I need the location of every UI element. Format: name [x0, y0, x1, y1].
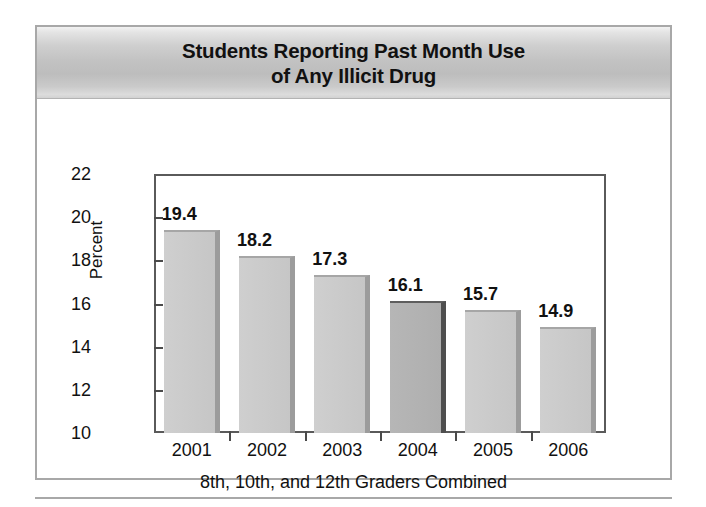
y-tick-label: 16	[51, 293, 91, 314]
y-tick-mark	[154, 260, 163, 262]
y-tick-label: 10	[51, 423, 91, 444]
bar-body	[239, 256, 295, 433]
bar-body	[390, 301, 446, 433]
bar-value-label: 18.2	[237, 230, 272, 251]
bar-value-label: 19.4	[162, 204, 197, 225]
x-tick-label-2006: 2006	[528, 440, 608, 461]
bar-body	[314, 275, 370, 433]
bar-body	[164, 230, 220, 433]
y-tick-label: 14	[51, 336, 91, 357]
bar-2005: 15.7	[465, 310, 521, 433]
figure-title-line-2: of Any Illicit Drug	[271, 63, 436, 88]
bar-body	[465, 310, 521, 433]
bar-2004: 16.1	[390, 301, 446, 433]
x-tick-label-2001: 2001	[152, 440, 232, 461]
bar-2006: 14.9	[540, 327, 596, 433]
y-tick-mark	[154, 304, 163, 306]
x-tick-label-2004: 2004	[378, 440, 458, 461]
bar-value-label: 14.9	[538, 301, 573, 322]
y-tick-label: 12	[51, 379, 91, 400]
x-tick-label-2005: 2005	[453, 440, 533, 461]
bar-2002: 18.2	[239, 256, 295, 433]
bar-value-label: 16.1	[388, 275, 423, 296]
x-axis-caption: 8th, 10th, and 12th Graders Combined	[37, 472, 670, 493]
bar-2003: 17.3	[314, 275, 370, 433]
y-tick-label: 18	[51, 250, 91, 271]
figure-title-line-1: Students Reporting Past Month Use	[182, 38, 525, 63]
chart-area: Percent 10121416182022 19.418.217.316.11…	[37, 100, 670, 480]
y-tick-label: 22	[51, 164, 91, 185]
y-tick-mark	[154, 390, 163, 392]
bar-body	[540, 327, 596, 433]
y-tick-mark	[154, 347, 163, 349]
bottom-divider	[35, 497, 672, 499]
y-tick-label: 20	[51, 207, 91, 228]
bar-2001: 19.4	[164, 230, 220, 433]
figure-container: Students Reporting Past Month Use of Any…	[35, 25, 672, 480]
x-tick-label-2003: 2003	[302, 440, 382, 461]
bar-value-label: 15.7	[463, 284, 498, 305]
bar-value-label: 17.3	[312, 249, 347, 270]
figure-title-banner: Students Reporting Past Month Use of Any…	[37, 27, 670, 99]
x-tick-label-2002: 2002	[227, 440, 307, 461]
